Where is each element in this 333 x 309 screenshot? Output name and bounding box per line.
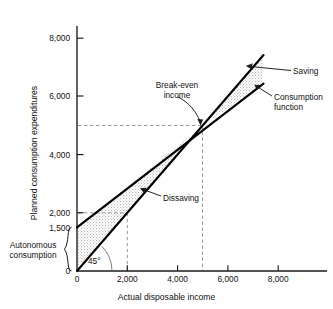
x-tick-label-4000: 4,000	[158, 274, 198, 284]
y-tick-label-6000: 6,000	[14, 91, 70, 101]
x-tick-label-0: 0	[57, 274, 97, 284]
y-tick-label-2000: 2,000	[14, 208, 70, 218]
consumption-function-label-line2: function	[274, 102, 303, 112]
saving-label: Saving	[293, 66, 333, 76]
x-tick-label-6000: 6,000	[208, 274, 248, 284]
y-tick-label-1500: 1,500	[14, 223, 70, 233]
consumption-function-leader	[254, 85, 272, 96]
break-even-income-label: Break-even income	[140, 80, 214, 101]
y-axis-title: Planned consumption expenditures	[29, 73, 39, 233]
break-even-income-label-line2: income	[164, 90, 191, 100]
y-tick-label-8000: 8,000	[14, 33, 70, 43]
axis-lines	[77, 26, 327, 271]
angle-arc	[102, 246, 112, 271]
angle-label: 45°	[88, 256, 101, 266]
autonomous-consumption-brace	[65, 227, 72, 271]
autonomous-consumption-label-line2: consumption	[9, 250, 56, 260]
breakeven-leader	[178, 97, 203, 125]
consumption-function-chart: 8,000 6,000 4,000 2,000 1,500 0 0 2,000 …	[0, 0, 333, 309]
autonomous-consumption-label-line1: Autonomous	[10, 240, 57, 250]
autonomous-consumption-label: Autonomous consumption	[2, 240, 64, 261]
consumption-function-label: Consumption function	[274, 92, 333, 113]
x-tick-label-8000: 8,000	[258, 274, 298, 284]
break-even-income-label-line1: Break-even	[156, 80, 198, 90]
x-axis-title: Actual disposable income	[0, 292, 333, 302]
consumption-function-label-line1: Consumption	[274, 92, 323, 102]
consumption-function-line	[77, 84, 264, 228]
y-tick-label-4000: 4,000	[14, 150, 70, 160]
dissaving-label: Dissaving	[163, 193, 213, 203]
x-tick-label-2000: 2,000	[107, 274, 147, 284]
